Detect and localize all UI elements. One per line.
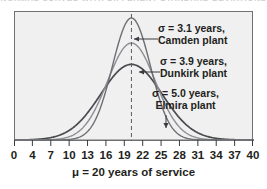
axis-tick-label: 25 <box>155 148 168 162</box>
annotation-camden: σ = 3.1 years, Camden plant <box>158 23 227 46</box>
arrow-elmira-head <box>163 123 168 128</box>
annotation-elmira-line1: σ = 5.0 years, <box>152 87 219 99</box>
annotation-elmira-line2: Elmira plant <box>152 100 219 112</box>
arrow-camden-head <box>134 36 139 41</box>
axis-tick-label: 19 <box>118 148 131 162</box>
axis-tick-label: 0 <box>11 148 17 162</box>
axis-tick-label: 7 <box>48 148 54 162</box>
axis-tick-label: 31 <box>191 148 204 162</box>
annotation-arrows <box>134 36 169 128</box>
axis-tick-label: 22 <box>136 148 149 162</box>
axis-tick-label: 28 <box>173 148 186 162</box>
axis-ticks <box>14 140 253 147</box>
axis-tick-label: 13 <box>81 148 94 162</box>
axis-tick-label: 34 <box>210 148 223 162</box>
cut-off-caption-text: NORMAL CURVES WITH DIFFERENT STANDARD DE… <box>1 0 267 3</box>
axis-title: μ = 20 years of service <box>0 165 267 179</box>
annotation-dunkirk-line2: Dunkirk plant <box>160 68 227 80</box>
axis-tick-label: 16 <box>100 148 113 162</box>
annotation-elmira: σ = 5.0 years, Elmira plant <box>152 88 219 111</box>
annotation-camden-line2: Camden plant <box>158 35 227 47</box>
axis-tick-label: 40 <box>247 148 260 162</box>
arrow-dunkirk-head <box>139 69 144 74</box>
annotation-camden-line1: σ = 3.1 years, <box>158 22 225 34</box>
annotation-dunkirk: σ = 3.9 years, Dunkirk plant <box>160 56 227 79</box>
cut-off-caption: NORMAL CURVES WITH DIFFERENT STANDARD DE… <box>0 0 267 5</box>
normal-curves-figure: NORMAL CURVES WITH DIFFERENT STANDARD DE… <box>0 0 267 189</box>
axis-tick-label: 4 <box>29 148 35 162</box>
axis-tick-labels: 0471013161922252831343740 <box>0 148 267 162</box>
axis-tick-label: 10 <box>63 148 76 162</box>
annotation-dunkirk-line1: σ = 3.9 years, <box>160 55 227 67</box>
axis-tick-label: 37 <box>228 148 241 162</box>
